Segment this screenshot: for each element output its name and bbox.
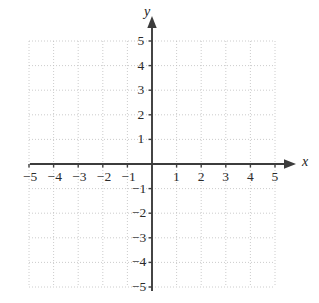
x-tick-label: −5 — [23, 170, 37, 184]
y-tick-label: −4 — [132, 255, 146, 269]
y-tick-label: −1 — [132, 182, 146, 196]
graph-canvas — [0, 0, 319, 303]
x-tick-label: −2 — [97, 170, 111, 184]
y-tick-label: −5 — [132, 280, 146, 294]
x-tick-label: −4 — [48, 170, 62, 184]
x-tick-label: −3 — [72, 170, 86, 184]
x-tick-label: 3 — [222, 170, 229, 184]
coordinate-plane: x y −5−4−3−2−11234554321−1−2−3−4−5 — [0, 0, 319, 303]
x-tick-label: 1 — [173, 170, 180, 184]
x-tick-label: 2 — [198, 170, 205, 184]
y-tick-label: 2 — [138, 108, 145, 122]
x-axis-arrowhead — [284, 159, 296, 168]
y-tick-label: −2 — [132, 206, 146, 220]
y-tick-label: 4 — [138, 59, 145, 73]
x-tick-label: 5 — [272, 170, 279, 184]
x-tick-label: 4 — [247, 170, 254, 184]
y-tick-label: 1 — [138, 132, 145, 146]
y-tick-label: −3 — [132, 231, 146, 245]
y-tick-label: 3 — [138, 83, 145, 97]
y-axis-label: y — [144, 5, 150, 19]
y-tick-label: 5 — [138, 34, 145, 48]
x-axis-label: x — [302, 155, 308, 169]
